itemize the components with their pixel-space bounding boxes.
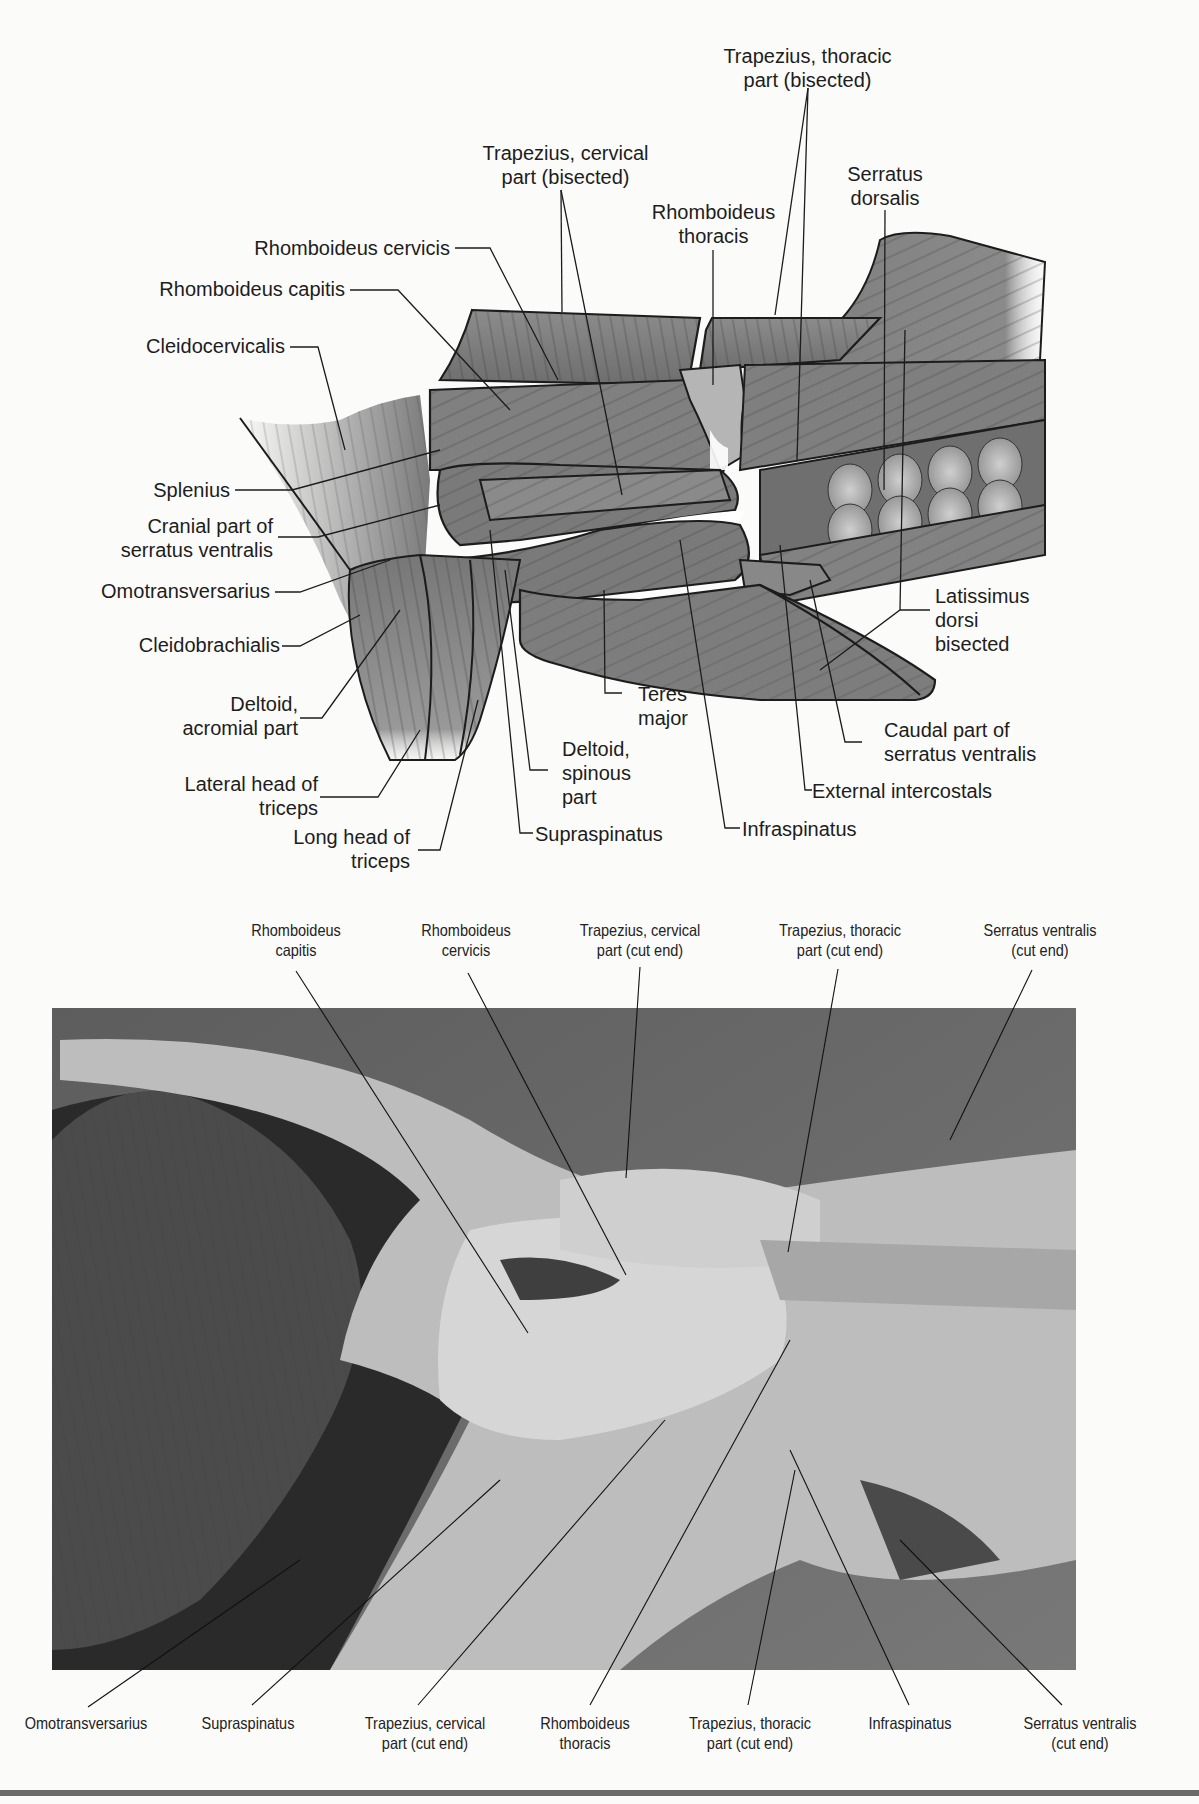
- label-rhomboideus-thoracis: Rhomboideus thoracis: [636, 200, 791, 248]
- photo-label-rhomboideus-thoracis: Rhomboideus thoracis: [523, 1713, 646, 1753]
- photo-label-trapezius-thoracic-cut: Trapezius, thoracic part (cut end): [752, 920, 928, 960]
- photo-label-rhomboideus-capitis: Rhomboideus capitis: [226, 920, 367, 960]
- label-serratus-dorsalis: Serratus dorsalis: [825, 162, 945, 210]
- page-bottom-rule: [0, 1790, 1199, 1796]
- photo-label-rhomboideus-cervicis: Rhomboideus cervicis: [396, 920, 537, 960]
- label-splenius: Splenius: [110, 478, 230, 502]
- label-rhomboideus-cervicis: Rhomboideus cervicis: [190, 236, 450, 260]
- label-trapezius-thoracic-bisected: Trapezius, thoracic part (bisected): [700, 44, 915, 92]
- label-teres-major: Teres major: [638, 682, 728, 730]
- photo-label-serratus-ventralis-cut: Serratus ventralis (cut end): [956, 920, 1123, 960]
- label-rhomboideus-capitis: Rhomboideus capitis: [90, 277, 345, 301]
- photo-label-omotransversarius: Omotransversarius: [10, 1713, 161, 1733]
- photo-label-supraspinatus: Supraspinatus: [186, 1713, 309, 1733]
- muscle-illustration: [240, 233, 1045, 760]
- anatomy-figure: Trapezius, thoracic part (bisected) Trap…: [0, 0, 1199, 1804]
- label-omotransversarius: Omotransversarius: [50, 579, 270, 603]
- photo-label-infraspinatus: Infraspinatus: [848, 1713, 971, 1733]
- label-lateral-head-triceps: Lateral head of triceps: [140, 772, 318, 820]
- label-cleidocervicalis: Cleidocervicalis: [90, 334, 285, 358]
- label-deltoid-acromial: Deltoid, acromial part: [140, 692, 298, 740]
- label-cranial-serratus-ventralis: Cranial part of serratus ventralis: [80, 514, 273, 562]
- label-external-intercostals: External intercostals: [812, 779, 1072, 803]
- photo-label-trapezius-cervical-cut: Trapezius, cervical part (cut end): [556, 920, 723, 960]
- photo-label-serratus-ventralis-cut-bottom: Serratus ventralis (cut end): [992, 1713, 1168, 1753]
- label-trapezius-cervical-bisected: Trapezius, cervical part (bisected): [458, 141, 673, 189]
- label-deltoid-spinous: Deltoid, spinous part: [562, 737, 662, 809]
- figure-artwork: [0, 0, 1199, 1804]
- dissection-photograph: [52, 1008, 1076, 1670]
- label-cleidobrachialis: Cleidobrachialis: [90, 633, 280, 657]
- label-caudal-serratus-ventralis: Caudal part of serratus ventralis: [884, 718, 1084, 766]
- label-long-head-triceps: Long head of triceps: [250, 825, 410, 873]
- label-latissimus-dorsi-bisected: Latissimus dorsi bisected: [935, 584, 1075, 656]
- label-supraspinatus: Supraspinatus: [535, 822, 715, 846]
- label-infraspinatus: Infraspinatus: [742, 817, 922, 841]
- photo-label-trapezius-thoracic-cut-bottom: Trapezius, thoracic part (cut end): [666, 1713, 833, 1753]
- photo-label-trapezius-cervical-cut-bottom: Trapezius, cervical part (cut end): [341, 1713, 508, 1753]
